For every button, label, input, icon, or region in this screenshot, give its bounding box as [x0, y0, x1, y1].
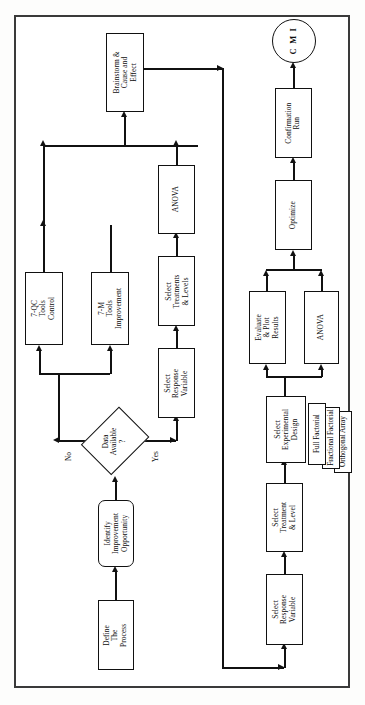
node-full-factorial-label: Full Factorial: [313, 415, 320, 454]
edge-anova-left-to-bus: [176, 145, 178, 166]
edge-bus-to-brainstorm: [124, 116, 126, 146]
arrowhead-split-to-evaluate: [263, 364, 269, 370]
node-brainstorm-cause-effect: Brainstorm & Cause and Effect: [106, 33, 144, 112]
edge-brainstorm-to-spine: [144, 68, 223, 70]
node-brainstorm-cause-effect-label: Brainstorm & Cause and Effect: [113, 51, 138, 93]
node-full-factorial: Full Factorial: [308, 403, 326, 465]
node-optimize: Optimize: [275, 180, 312, 250]
node-select-response-variable-right: Select Response Variable: [266, 574, 303, 645]
edge-split-to-anova-right: [321, 369, 323, 377]
edge-identify-to-decision: [115, 482, 117, 501]
node-define-process-label: Define The Process: [104, 623, 129, 646]
edge-label-yes: Yes: [150, 452, 161, 461]
arrowhead-anova-left-to-bus: [173, 140, 179, 146]
edge-define-to-identify: [115, 571, 117, 601]
edge-no-split-bus: [39, 373, 110, 375]
edge-srv-right-to-treatment: [284, 556, 286, 575]
arrowhead-evaluate-merge: [263, 270, 269, 276]
edge-evaluate-to-merge: [266, 275, 268, 292]
node-confirmation-run-label: Confirmation Run: [285, 102, 302, 143]
arrowhead-brainstorm-to-spine: [217, 65, 223, 71]
edge-m-tools-to-merge: [110, 225, 112, 273]
edge-no-vertical: [58, 373, 60, 441]
node-anova-right-label: ANOVA: [317, 314, 325, 340]
node-select-response-variable-right-label: Select Response Variable: [272, 595, 297, 624]
arrowhead-to-m-tools: [107, 345, 113, 351]
arrowhead-merge-left-riser: [40, 140, 46, 146]
node-7qc-tools-control: 7-QC Tools Control: [25, 272, 63, 345]
edge-confirmation-to-cmi: [293, 67, 295, 89]
node-select-treatment-level: Select Treatment & Level: [266, 483, 303, 552]
arrowhead-no-branch: [53, 437, 59, 443]
node-select-response-variable-left: Select Response Variable: [158, 348, 195, 418]
node-7m-tools-improvement: 7-M Tools Improvement: [91, 272, 129, 345]
arrowhead-anova-right-merge: [318, 270, 324, 276]
edge-bus-to-qc-tools: [39, 350, 41, 374]
node-identify-improvement-opportunity-label: Identify Improvement Opportunity: [104, 513, 129, 554]
edge-design-to-split: [284, 376, 286, 397]
edge-bus-to-m-tools: [110, 350, 112, 374]
node-cmi-terminator-label: C M I: [289, 27, 298, 54]
node-select-experimental-design-label: Select Experimental Design: [274, 409, 299, 450]
edge-anova-right-to-merge: [321, 275, 323, 292]
node-fractional-factorial-label: Fractional Factorial: [327, 410, 334, 466]
edge-yes-riser: [176, 420, 178, 441]
return-spine-bottom: [222, 667, 284, 669]
edge-treatments-to-anova-left: [176, 237, 178, 257]
node-anova-right: ANOVA: [304, 291, 339, 364]
node-select-treatments-levels: Select Treatments & Levels: [158, 256, 195, 326]
node-anova-left-label: ANOVA: [172, 186, 180, 212]
arrowhead-yes-branch: [170, 437, 176, 443]
node-anova-left: ANOVA: [158, 165, 195, 234]
edge-split-to-evaluate: [266, 369, 268, 377]
node-identify-improvement-opportunity: Identify Improvement Opportunity: [98, 500, 134, 567]
arrowhead-split-to-anova-right: [318, 364, 324, 370]
node-evaluate-plot-results-label: Evaluate & Plot Results: [255, 314, 280, 341]
edge-qc-tools-to-merge: [43, 225, 45, 273]
arrowhead-merge-to-optimize: [290, 250, 296, 256]
arrowhead-qc-tools-merge: [40, 220, 46, 226]
edge-merge-to-optimize: [293, 255, 295, 270]
edge-merge-left-riser: [43, 145, 45, 226]
return-spine-riser: [284, 648, 286, 668]
node-define-process: Define The Process: [98, 600, 134, 670]
node-cmi-terminator: C M I: [272, 19, 316, 63]
edge-srv-to-treatments: [176, 330, 178, 349]
node-select-treatments-levels-label: Select Treatments & Levels: [164, 274, 189, 308]
node-select-experimental-design: Select Experimental Design: [266, 396, 306, 463]
node-7m-tools-improvement-label: 7-M Tools Improvement: [98, 288, 123, 329]
node-data-available-decision: Data Available ?: [86, 404, 144, 478]
edge-design-split-bus: [266, 376, 322, 378]
node-confirmation-run: Confirmation Run: [275, 88, 312, 158]
arrowhead-to-qc-tools: [36, 345, 42, 351]
node-evaluate-plot-results: Evaluate & Plot Results: [249, 291, 286, 364]
node-data-available-decision-label: Data Available ?: [86, 404, 144, 478]
node-select-response-variable-left-label: Select Response Variable: [164, 368, 189, 397]
flowchart-canvas: Define The Process Identify Improvement …: [0, 0, 365, 705]
edge-treatment-to-design: [284, 464, 286, 484]
arrowhead-spine-bottom: [278, 664, 284, 670]
node-optimize-label: Optimize: [289, 201, 297, 229]
edge-optimize-to-confirmation: [293, 162, 295, 181]
node-orthogonal-array-label: Orthogonal Array: [339, 417, 346, 468]
node-7qc-tools-control-label: 7-QC Tools Control: [32, 297, 57, 320]
node-select-treatment-level-label: Select Treatment & Level: [272, 502, 297, 533]
return-spine-vertical: [222, 68, 224, 668]
edge-label-no: No: [64, 452, 73, 461]
